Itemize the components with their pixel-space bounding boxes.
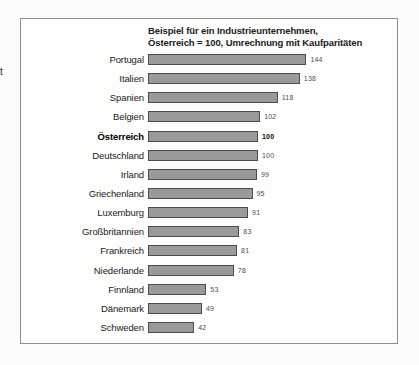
chart-row: Großbritannien83 <box>21 222 397 241</box>
category-label: Griechenland <box>21 188 144 199</box>
value-label: 144 <box>310 56 322 63</box>
bar <box>148 265 234 276</box>
chart-row: Griechenland95 <box>21 184 397 203</box>
bar <box>148 188 253 199</box>
bar <box>148 111 260 122</box>
value-label: 100 <box>262 133 274 140</box>
category-label: Luxemburg <box>21 207 144 218</box>
bar <box>148 284 206 295</box>
chart-title-line2: Österreich = 100, Umrechnung mit Kaufpar… <box>148 37 362 48</box>
bar <box>148 226 239 237</box>
value-label: 102 <box>264 113 276 120</box>
value-label: 95 <box>257 190 265 197</box>
chart-row: Niederlande78 <box>21 261 397 280</box>
chart-row: Finnland53 <box>21 280 397 299</box>
chart-row: Österreich100 <box>21 127 397 146</box>
category-label: Italien <box>21 73 144 84</box>
chart-row: Italien138 <box>21 69 397 88</box>
value-label: 100 <box>262 152 274 159</box>
value-label: 99 <box>261 171 269 178</box>
chart-row: Irland99 <box>21 165 397 184</box>
category-label: Spanien <box>21 92 144 103</box>
chart-row: Spanien118 <box>21 88 397 107</box>
category-label: Schweden <box>21 322 144 333</box>
bar <box>148 54 306 65</box>
category-label: Niederlande <box>21 265 144 276</box>
category-label: Irland <box>21 169 144 180</box>
bar <box>148 150 258 161</box>
value-label: 53 <box>210 286 218 293</box>
chart-title-line1: Beispiel für ein Industrieunternehmen, <box>148 25 318 36</box>
category-label: Großbritannien <box>21 226 144 237</box>
clipped-margin-text: t <box>0 66 3 77</box>
bar <box>148 73 300 84</box>
value-label: 91 <box>252 209 260 216</box>
bar <box>148 303 202 314</box>
category-label: Belgien <box>21 111 144 122</box>
bar <box>148 92 278 103</box>
chart-title: Beispiel für ein Industrieunternehmen, Ö… <box>148 25 362 48</box>
category-label: Finnland <box>21 284 144 295</box>
chart-row: Belgien102 <box>21 107 397 126</box>
value-label: 138 <box>304 75 316 82</box>
bar <box>148 207 248 218</box>
category-label: Deutschland <box>21 150 144 161</box>
chart-row: Portugal144 <box>21 50 397 69</box>
bar-chart: Portugal144Italien138Spanien118Belgien10… <box>21 50 397 337</box>
chart-frame: Beispiel für ein Industrieunternehmen, Ö… <box>20 18 398 344</box>
chart-row: Luxemburg91 <box>21 203 397 222</box>
bar <box>148 245 237 256</box>
chart-row: Dänemark49 <box>21 299 397 318</box>
category-label: Österreich <box>21 131 144 142</box>
chart-row: Deutschland100 <box>21 146 397 165</box>
value-label: 83 <box>243 228 251 235</box>
bar <box>148 169 257 180</box>
category-label: Frankreich <box>21 245 144 256</box>
chart-row: Frankreich81 <box>21 241 397 260</box>
value-label: 49 <box>206 305 214 312</box>
category-label: Portugal <box>21 54 144 65</box>
bar <box>148 131 258 142</box>
category-label: Dänemark <box>21 303 144 314</box>
bar <box>148 322 194 333</box>
value-label: 81 <box>241 247 249 254</box>
value-label: 78 <box>238 267 246 274</box>
chart-row: Schweden42 <box>21 318 397 337</box>
value-label: 118 <box>282 94 294 101</box>
scanned-figure: t Beispiel für ein Industrieunternehmen,… <box>0 0 419 365</box>
value-label: 42 <box>198 324 206 331</box>
